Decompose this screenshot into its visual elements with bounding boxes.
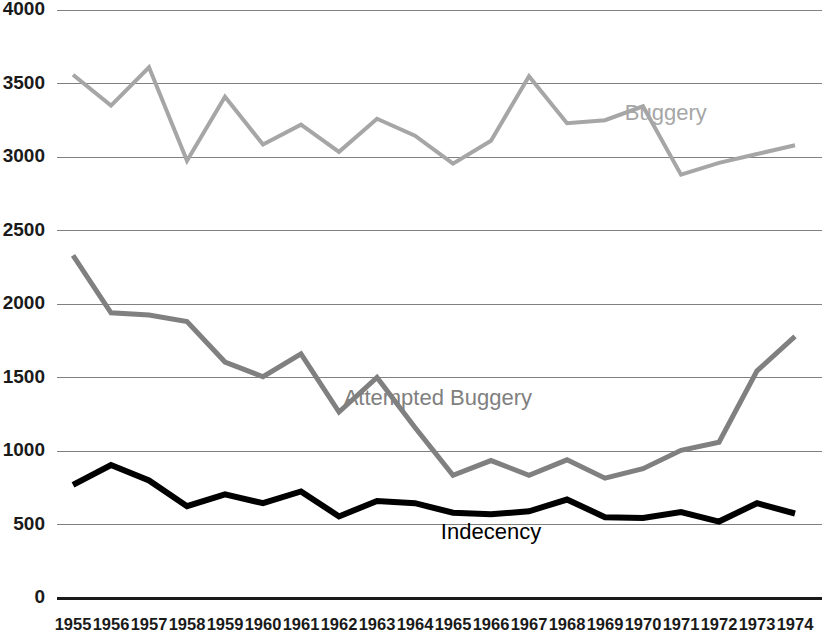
y-axis-tick-label: 0: [34, 586, 45, 607]
x-axis-tick-label: 1974: [777, 615, 815, 633]
x-axis-tick-label: 1960: [245, 615, 282, 633]
x-axis-tick-label: 1955: [55, 615, 92, 633]
x-axis-tick-label: 1957: [131, 615, 168, 633]
series-paths-group: [73, 67, 795, 521]
x-axis-tick-labels: 1955195619571958195919601961196219631964…: [55, 615, 815, 633]
x-axis-tick-label: 1961: [283, 615, 320, 633]
x-axis-tick-label: 1972: [701, 615, 738, 633]
x-axis-tick-label: 1973: [739, 615, 776, 633]
series-line-attempted-buggery: [73, 255, 795, 478]
series-label-attempted-buggery: Attempted Buggery: [344, 385, 532, 410]
x-axis-tick-label: 1967: [511, 615, 548, 633]
y-axis-tick-label: 3500: [3, 72, 45, 93]
x-axis-tick-label: 1971: [663, 615, 700, 633]
gridlines-group: [57, 10, 822, 525]
series-inline-labels: BuggeryAttempted BuggeryIndecency: [344, 100, 707, 544]
x-axis-tick-label: 1956: [93, 615, 130, 633]
x-axis-tick-label: 1963: [359, 615, 396, 633]
x-axis-tick-label: 1962: [321, 615, 358, 633]
y-axis-tick-label: 1500: [3, 366, 45, 387]
y-axis-tick-label: 2500: [3, 219, 45, 240]
x-axis-tick-label: 1959: [207, 615, 244, 633]
x-axis-tick-label: 1966: [473, 615, 510, 633]
y-axis-tick-labels: 05001000150020002500300035004000: [3, 0, 45, 607]
x-axis-tick-label: 1969: [587, 615, 624, 633]
x-axis-tick-label: 1964: [397, 615, 435, 633]
y-axis-tick-label: 1000: [3, 439, 45, 460]
chart-canvas: 05001000150020002500300035004000 Buggery…: [0, 0, 827, 637]
series-label-buggery: Buggery: [625, 100, 707, 125]
series-line-indecency: [73, 465, 795, 522]
x-axis-tick-label: 1965: [435, 615, 472, 633]
x-axis-tick-label: 1968: [549, 615, 586, 633]
series-label-indecency: Indecency: [441, 519, 541, 544]
x-axis-tick-label: 1970: [625, 615, 662, 633]
line-chart: 05001000150020002500300035004000 Buggery…: [0, 0, 827, 637]
y-axis-tick-label: 4000: [3, 0, 45, 19]
y-axis-tick-label: 3000: [3, 145, 45, 166]
y-axis-tick-label: 500: [13, 513, 45, 534]
x-axis-tick-label: 1958: [169, 615, 206, 633]
y-axis-tick-label: 2000: [3, 292, 45, 313]
